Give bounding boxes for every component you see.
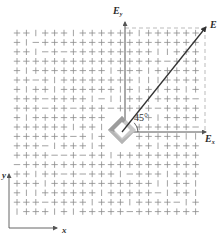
y-axis-label: y <box>2 171 6 180</box>
polarization-diagram: Ey E Ex 45° y x <box>0 0 222 237</box>
plus-grid-field <box>14 30 199 215</box>
ex-label: Ex <box>205 134 215 145</box>
ey-label: Ey <box>113 6 122 17</box>
x-axis-label: x <box>62 226 67 235</box>
e-label: E <box>210 20 217 30</box>
diagram-canvas <box>0 0 222 237</box>
angle-label: 45° <box>134 113 148 123</box>
